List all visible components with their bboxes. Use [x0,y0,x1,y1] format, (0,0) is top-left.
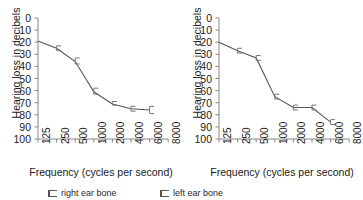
y-axis-tick-label: 30 [5,49,31,59]
x-axis-tick-label: 125 [42,127,52,144]
x-axis-tick-label: 1000 [279,122,289,144]
y-axis-tick-label: 60 [186,86,212,96]
chart-panel-left-ear: Hearing loss in decibels Frequency (cycl… [181,0,363,185]
x-axis-tick-label: 250 [242,127,252,144]
x-axis-tick-label: 4000 [135,122,145,144]
x-axis-tick-label: 500 [260,127,270,144]
y-axis-tick-label: 60 [5,86,31,96]
y-axis-tick-label: 10 [186,25,212,35]
y-axis-tick-label: 50 [5,74,31,84]
y-axis-tick-label: 70 [5,98,31,108]
x-axis-tick-label: 250 [61,127,71,144]
y-axis-tick-label: 80 [186,110,212,120]
y-axis-tick-label: 90 [5,122,31,132]
error-bar-symbol [48,190,57,197]
legend-label: right ear bone [61,188,117,198]
y-axis-tick-label: 100 [5,134,31,144]
y-axis-tick-label: 40 [5,61,31,71]
y-axis-tick-label: 30 [186,49,212,59]
y-axis-tick-label: 0 [186,13,212,23]
y-axis-tick-label: 10 [5,25,31,35]
x-axis-tick-label: 500 [79,127,89,144]
y-axis-tick-label: 20 [5,37,31,47]
figure-legend: right ear boneleft ear bone [0,186,363,200]
y-axis-tick-label: 50 [186,74,212,84]
chart-panel-right-ear: Hearing loss in decibels Frequency (cycl… [0,0,181,185]
x-axis-tick-label: 6000 [335,122,345,144]
y-axis-tick-label: 70 [186,98,212,108]
hearing-loss-audiogram-figure: Hearing loss in decibels Frequency (cycl… [0,0,363,200]
x-axis-tick-label: 4000 [316,122,326,144]
x-axis-tick-label: 2000 [297,122,307,144]
y-axis-tick-label: 90 [186,122,212,132]
y-axis-tick-label: 100 [186,134,212,144]
x-axis-tick-label: 125 [223,127,233,144]
chart-panels: Hearing loss in decibels Frequency (cycl… [0,0,363,185]
x-axis-tick-label: 1000 [98,122,108,144]
legend-entry: right ear bone [48,187,117,199]
error-bar-symbol [160,190,169,197]
y-axis-tick-label: 0 [5,13,31,23]
y-axis-tick-label: 20 [186,37,212,47]
legend-label: left ear bone [173,188,223,198]
x-axis-tick-label: 8000 [353,122,363,144]
y-axis-tick-label: 80 [5,110,31,120]
y-axis-tick-label: 40 [186,61,212,71]
legend-entry: left ear bone [160,187,223,199]
x-axis-tick-label: 2000 [116,122,126,144]
x-axis-tick-label: 6000 [154,122,164,144]
